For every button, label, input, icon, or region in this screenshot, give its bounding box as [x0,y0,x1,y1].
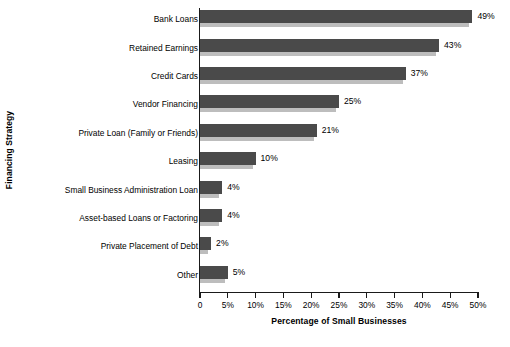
category-label: Retained Earnings [129,43,198,51]
bar-shadow [200,80,403,84]
category-label: Leasing [169,157,198,165]
x-axis-tick-label: 20% [303,300,320,310]
x-axis-tick-label: 35% [386,300,403,310]
bar-row: Vendor Financing25% [0,93,510,121]
bar-value-label: 49% [477,10,494,23]
bar-shadow [200,279,225,283]
bar-row: Credit Cards37% [0,65,510,93]
bar-shadow [200,52,436,56]
x-axis-tick [338,293,339,298]
bar-row: Small Business Administration Loan4% [0,178,510,206]
bar-value-label: 43% [444,39,461,52]
x-axis-tick-label: 15% [275,300,292,310]
category-label: Other [177,271,198,279]
bar-group: 10% [200,152,296,172]
x-axis-tick-label: 10% [247,300,264,310]
x-axis-tick-label: 45% [442,300,459,310]
x-axis-tick [477,293,478,298]
bar-shadow [200,194,219,198]
x-axis-tick-label: 30% [358,300,375,310]
y-axis-line [199,8,200,292]
bar [200,67,406,80]
bar-row: Asset-based Loans or Factoring4% [0,207,510,235]
bar [200,181,222,194]
bar-value-label: 2% [216,237,228,250]
bar-group: 43% [200,39,479,59]
bar-group: 4% [200,209,262,229]
plot-area: Bank Loans49%Retained Earnings43%Credit … [0,8,510,292]
bar-row: Leasing10% [0,150,510,178]
x-axis-tick [199,293,200,298]
bar [200,10,472,23]
bar-shadow [200,137,314,141]
bar-value-label: 25% [344,95,361,108]
category-label: Private Loan (Family or Friends) [78,129,198,137]
x-axis-tick-label: 0 [198,300,203,310]
bar-row: Retained Earnings43% [0,36,510,64]
bar-group: 5% [200,266,268,286]
bar [200,152,256,165]
bar-shadow [200,108,336,112]
bar-group: 49% [200,10,510,30]
bar-group: 4% [200,181,262,201]
x-axis-tick [227,293,228,298]
category-label: Vendor Financing [133,100,198,108]
bar [200,266,228,279]
bar-group: 37% [200,67,446,87]
category-label: Bank Loans [154,15,198,23]
bar-row: Bank Loans49% [0,8,510,36]
x-axis-tick-label: 50% [470,300,487,310]
bar-group: 21% [200,124,357,144]
bar [200,124,317,137]
bar-group: 25% [200,95,379,115]
bar-value-label: 4% [227,181,239,194]
bar-chart: Financing Strategy Bank Loans49%Retained… [0,0,510,347]
x-axis-tick [450,293,451,298]
bar-value-label: 5% [233,266,245,279]
bar-shadow [200,222,219,226]
x-axis-tick [283,293,284,298]
bar-value-label: 10% [261,152,278,165]
category-label: Small Business Administration Loan [65,185,198,193]
category-label: Private Placement of Debt [101,242,198,250]
bar-row: Private Placement of Debt2% [0,235,510,263]
bar-shadow [200,165,253,169]
category-label: Credit Cards [151,72,198,80]
x-axis-tick [394,293,395,298]
x-axis-tick-label: 5% [222,300,234,310]
bar-row: Private Loan (Family or Friends)21% [0,122,510,150]
bar [200,95,339,108]
bar [200,237,211,250]
x-axis-tick [255,293,256,298]
x-axis-title: Percentage of Small Businesses [199,316,479,326]
x-axis-tick [422,293,423,298]
bar-value-label: 21% [322,124,339,137]
bar-group: 2% [200,237,251,257]
bar-row: Other5% [0,264,510,292]
bar [200,39,439,52]
x-axis-tick-label: 25% [331,300,348,310]
x-axis-tick [366,293,367,298]
category-label: Asset-based Loans or Factoring [79,214,198,222]
bar [200,209,222,222]
bar-value-label: 4% [227,209,239,222]
x-axis-tick [311,293,312,298]
bar-shadow [200,23,469,27]
x-axis-tick-label: 40% [414,300,431,310]
bar-shadow [200,250,208,254]
bar-value-label: 37% [411,67,428,80]
